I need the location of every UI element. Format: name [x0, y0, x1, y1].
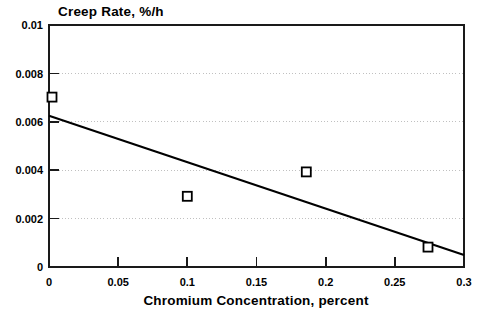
- y-tick-label-0.004: 0.004: [15, 164, 43, 176]
- x-axis-title: Chromium Concentration, percent: [143, 293, 369, 308]
- x-tick-label-0: 0: [46, 276, 52, 288]
- x-tick-label-0.15: 0.15: [246, 276, 267, 288]
- y-tick-label-0: 0: [37, 261, 43, 273]
- y-axis-title: Creep Rate, %/h: [58, 4, 164, 19]
- x-tick-label-0.05: 0.05: [107, 276, 128, 288]
- data-point-3: [302, 167, 311, 176]
- x-tick-label-0.3: 0.3: [456, 276, 471, 288]
- data-point-1: [48, 93, 57, 102]
- chart-figure: 0.01 0.008 0.006 0.004 0.002 0 0 0.05 0.…: [0, 0, 478, 315]
- y-tick-label-0.008: 0.008: [15, 68, 43, 80]
- y-tick-label-0.006: 0.006: [15, 116, 43, 128]
- x-tick-label-0.1: 0.1: [180, 276, 195, 288]
- creep-rate-scatter-chart: 0.01 0.008 0.006 0.004 0.002 0 0 0.05 0.…: [0, 0, 478, 315]
- x-tick-label-0.2: 0.2: [318, 276, 333, 288]
- y-tick-label-0.01: 0.01: [22, 19, 43, 31]
- y-tick-label-0.002: 0.002: [15, 213, 43, 225]
- data-point-2: [183, 192, 192, 201]
- data-point-4: [424, 243, 433, 252]
- x-tick-label-0.25: 0.25: [384, 276, 405, 288]
